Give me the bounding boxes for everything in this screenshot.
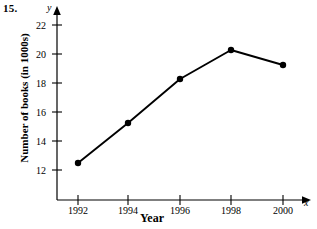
y-axis <box>52 6 62 200</box>
data-point-marker <box>75 160 81 166</box>
data-series-line <box>78 50 283 163</box>
data-point-marker <box>280 62 286 68</box>
data-point-marker <box>177 76 183 82</box>
data-point-marker <box>125 120 131 126</box>
data-point-markers <box>75 47 286 166</box>
data-point-marker <box>228 47 234 53</box>
x-axis <box>57 195 311 205</box>
x-axis-arrow-icon <box>302 196 311 204</box>
y-axis-arrow-icon <box>53 6 61 15</box>
plot-canvas <box>0 0 317 229</box>
figure-plot-15: 15. Number of books (in 1000s) Year y x … <box>0 0 317 229</box>
